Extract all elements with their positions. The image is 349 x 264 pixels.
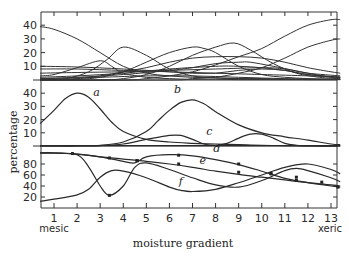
y-tick-label: 30 [23,33,37,46]
y-tick-label: 10 [23,60,37,73]
y-tick-label: 80 [23,158,37,171]
panel-bottom: 20406080def [23,142,340,204]
y-tick-label: 10 [23,127,37,140]
x-annotation-xeric: xeric [318,223,342,234]
series-t6-line [40,43,340,80]
x-tick-label: 5 [143,212,150,225]
x-annotation-mesic: mesic [39,223,68,234]
y-tick-label: 20 [23,47,37,60]
x-tick-label: 4 [120,212,127,225]
y-axis-label: percentage [7,110,20,173]
x-tick-label: 11 [278,212,292,225]
chart-frame [33,12,337,208]
series-label-a: a [93,86,100,99]
vegetation-gradient-chart: 10203040 10203040abc 20406080def 1234567… [0,0,349,264]
series-label-f: f [178,175,185,188]
panel-middle: 10203040abc [23,83,340,146]
data-point-marker [177,154,180,157]
x-tick-label: 6 [166,212,173,225]
x-tick-label: 7 [189,212,196,225]
data-point-marker [177,163,180,166]
x-tick-label: 12 [301,212,315,225]
x-tick-label: 9 [235,212,242,225]
y-tick-label: 40 [23,19,37,32]
y-tick-label: 40 [23,87,37,100]
data-point-marker [269,172,272,175]
series-label-b: b [174,83,181,96]
series-f-line [40,153,340,195]
series-g-line [40,164,340,201]
y-tick-label: 30 [23,100,37,113]
data-point-marker [108,156,111,159]
data-point-marker [320,181,323,184]
data-point-marker [237,163,240,166]
x-axis: 12345678910111213 [51,203,339,225]
series-c-line [40,134,340,146]
data-point-marker [295,179,298,182]
data-point-marker [136,159,139,162]
data-point-marker [108,194,111,197]
x-tick-label: 10 [255,212,269,225]
series-label-c: c [206,125,212,138]
panel-top: 10203040 [23,19,340,80]
series-label-d: d [213,142,220,155]
x-tick-label: 3 [97,212,104,225]
x-tick-label: 8 [212,212,219,225]
y-tick-label: 20 [23,114,37,127]
data-point-marker [237,171,240,174]
series-t8-line [40,39,340,80]
x-axis-label: moisture gradient [133,237,234,250]
series-label-e: e [199,154,206,167]
x-tick-label: 2 [74,212,81,225]
data-point-marker [295,176,298,179]
